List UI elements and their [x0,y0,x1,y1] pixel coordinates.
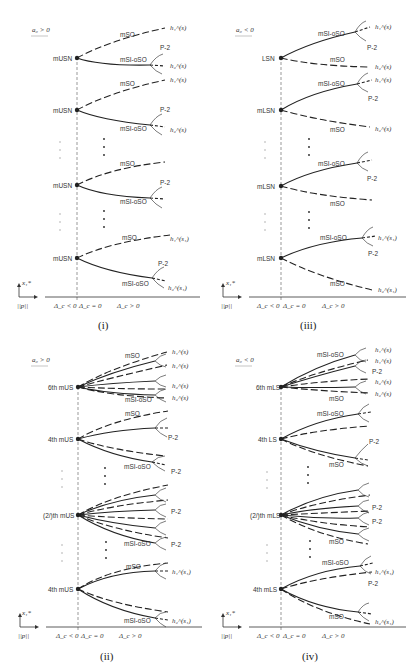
endpoint-label: h₂^(s) [172,394,189,402]
branch-label: P-2 [368,580,379,587]
region-label: Δ_c = 0 [78,302,102,310]
point-label: 4th mUS [48,436,74,443]
region-label: Δ_c = 0 [80,632,104,640]
panel-caption: (i) [98,319,109,332]
region-label: Δ_c > 0 [116,302,140,310]
branch-label: mSO [125,352,140,359]
branch-label: mSO [125,410,140,417]
condition-label: a₀ < 0 [236,356,254,364]
endpoint-label: h₁^(s) [375,23,392,31]
branch-label: P-2 [160,106,171,113]
point-label: mLSN [257,183,275,190]
point-label: (2/)th mLS [250,512,281,520]
x-axis-label: ||p|| [221,632,232,640]
panel-caption: (ii) [100,650,114,663]
branch-label: mSI-oSO [122,280,149,287]
point-label: mUSN [53,107,72,114]
branch-label: P-2 [372,518,383,525]
branch-label: mSO [120,160,135,167]
branch-label: P-2 [168,434,179,441]
endpoint-label: h₁^(s) [375,357,392,365]
endpoint-label: h₁^(s) [375,346,392,354]
branch-label: mSI-oSO [322,559,349,566]
endpoint-label: h₁^(s) [170,24,187,32]
x-axis-label: ||p|| [221,302,232,310]
y-axis-label: x₁* [21,609,32,617]
region-label: Δ_c < 0 [53,302,77,310]
branch-label: P-2 [171,541,182,548]
branch-label: P-2 [372,504,383,511]
bifurcation-diagram-figure: a₀ > 0 mUSN mSO mSI-oSO P-2 h₁^(s) h₂^(s… [0,0,420,672]
point-label: 6th mUS [48,384,74,391]
panel-iv: a₀ < 0 6th mLS mSI-oSO mSO P-2 h₁^(s) h₁… [221,346,406,663]
endpoint-label: h₁^(s) [172,362,189,370]
y-axis-label: x₁* [225,609,236,617]
point-label: (2/)th mUS [43,512,75,520]
region-label: Δ_c < 0 [256,632,280,640]
region-label: Δ_c = 0 [282,632,306,640]
condition-label: a₀ > 0 [32,356,50,364]
branch-label: P-2 [158,260,169,267]
endpoint-label: h₂^(s) [170,126,187,134]
branch-label: mSI-oSO [318,160,345,167]
branch-label: mSO [330,126,345,133]
branch-label: mSI-oSO [317,351,344,358]
branch-label: mSI-oSO [120,125,147,132]
point-label: mLSN [257,107,275,114]
branch-label: mSO [330,280,345,287]
branch-label: mSI-oSO [320,234,347,241]
endpoint-label: h₂^(s) [172,382,189,390]
endpoint-label: h₁^(s₁) [172,568,191,576]
branch-label: mSO [120,31,135,38]
branch-label: P-2 [171,508,182,515]
branch-label: mSI-oSO [120,56,147,63]
branch-label: mSI-oSO [124,540,151,547]
y-axis-label: x₁* [21,279,32,287]
y-axis-label: x₁* [225,279,236,287]
region-label: Δ_c > 0 [321,302,345,310]
endpoint-label: h₁^(s₁) [378,234,397,242]
branch-label: P-2 [372,368,383,375]
point-label: mLSN [257,255,275,262]
branch-label: mSO [329,461,344,468]
panel-caption: (iv) [302,650,318,663]
panel-iii: a₀ < 0 LSN mSI-oSO mSO P-2 h₁^(s) h₂^(s)… [221,21,406,332]
branch-label: mSO [122,234,137,241]
panel-ii: a₀ > 0 6th mUS mSO mSI-oSO h₁^(s) h₁^(s)… [18,348,202,663]
branch-label: mSI-oSO [124,463,151,470]
endpoint-label: h₂^(s) [375,378,392,386]
endpoint-label: h₂^(s₁) [375,618,394,626]
endpoint-label: h₂^(s₁) [378,286,397,294]
endpoint-label: h₁^(s₁) [375,568,394,576]
branch-label: P-2 [368,95,379,102]
x-axis-label: ||p|| [18,632,29,640]
region-label: Δ_c < 0 [256,302,280,310]
endpoint-label: h₂^(s₁) [168,284,187,292]
branch-label: P-2 [367,44,378,51]
endpoint-label: h₂^(s) [375,390,392,398]
endpoint-label: h₂^(s₁) [172,617,191,625]
endpoint-label: h₁^(s) [172,348,189,356]
branch-label: P-2 [160,44,171,51]
condition-label: a₀ > 0 [32,26,50,34]
branch-label: mSO [120,80,135,87]
endpoint-label: h₂^(s) [375,63,392,71]
endpoint-label: h₁^(s₁) [170,235,189,243]
branch-label: mSO [330,200,345,207]
branch-label: mSI-oSO [318,30,345,37]
endpoint-label: h₁^(s) [375,76,392,84]
branch-label: mSO [126,563,141,570]
x-axis-label: ||p|| [17,302,28,310]
branch-label: mSO [329,613,344,620]
branch-label: mSI-oSO [318,80,345,87]
region-label: Δ_c > 0 [118,632,142,640]
point-label: mUSN [53,182,72,189]
branch-label: mSO [330,56,345,63]
region-label: Δ_c = 0 [282,302,306,310]
point-label: 4th mUS [48,586,74,593]
condition-label: a₀ < 0 [236,26,254,34]
endpoint-label: h₂^(s) [375,125,392,133]
branch-label: mSI-oSO [120,198,147,205]
point-label: LSN [262,55,275,62]
branch-label: P-2 [369,438,380,445]
